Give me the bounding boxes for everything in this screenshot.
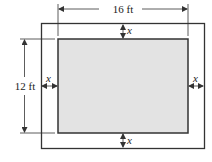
- bottom-gap-label: x: [126, 134, 132, 146]
- border-diagram: 16 ft 12 ft x x x x: [0, 0, 212, 162]
- right-gap-label: x: [192, 72, 198, 84]
- top-dimension-label: 16 ft: [113, 3, 133, 15]
- top-gap-label: x: [126, 24, 132, 36]
- left-gap-label: x: [45, 72, 51, 84]
- left-dimension-label: 12 ft: [15, 80, 35, 92]
- inner-rectangle: [58, 39, 188, 133]
